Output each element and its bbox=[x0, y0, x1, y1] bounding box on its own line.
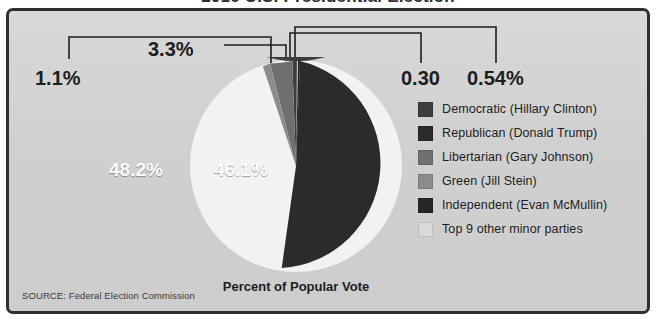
legend-swatch-minor-parties bbox=[418, 222, 433, 237]
legend-item-independent: Independent (Evan McMullin) bbox=[418, 193, 647, 217]
axis-caption: Percent of Popular Vote bbox=[185, 279, 407, 294]
legend-swatch-independent bbox=[418, 198, 433, 213]
chart-panel-inner: 46.1% 48.2% 1.1% 3.3% 0.30 0.54% Percent… bbox=[9, 11, 647, 311]
chart-title-strip: 2016 U.S. Presidential Election bbox=[0, 0, 656, 7]
slice-label-democratic: 48.2% bbox=[109, 159, 163, 181]
callout-label-minor-parties: 0.54% bbox=[467, 67, 524, 90]
callout-label-independent: 0.30 bbox=[401, 67, 440, 90]
chart-title: 2016 U.S. Presidential Election bbox=[0, 0, 656, 7]
callout-label-libertarian: 3.3% bbox=[148, 38, 194, 61]
callout-label-green: 1.1% bbox=[35, 67, 81, 90]
source-note: SOURCE: Federal Election Commission bbox=[22, 290, 195, 301]
legend-swatch-democratic bbox=[418, 102, 433, 117]
chart-screenshot: 2016 U.S. Presidential Election bbox=[0, 0, 656, 321]
legend-item-democratic: Democratic (Hillary Clinton) bbox=[418, 97, 647, 121]
legend-swatch-republican bbox=[418, 126, 433, 141]
legend-label-minor-parties: Top 9 other minor parties bbox=[442, 222, 583, 236]
legend-item-libertarian: Libertarian (Gary Johnson) bbox=[418, 145, 647, 169]
legend-label-green: Green (Jill Stein) bbox=[442, 174, 537, 188]
legend-swatch-libertarian bbox=[418, 150, 433, 165]
legend-item-republican: Republican (Donald Trump) bbox=[418, 121, 647, 145]
legend-swatch-green bbox=[418, 174, 433, 189]
legend-label-democratic: Democratic (Hillary Clinton) bbox=[442, 102, 597, 116]
chart-legend: Democratic (Hillary Clinton) Republican … bbox=[418, 97, 647, 241]
legend-item-minor-parties: Top 9 other minor parties bbox=[418, 217, 647, 241]
legend-label-republican: Republican (Donald Trump) bbox=[442, 126, 597, 140]
chart-panel: 46.1% 48.2% 1.1% 3.3% 0.30 0.54% Percent… bbox=[6, 8, 650, 314]
legend-item-green: Green (Jill Stein) bbox=[418, 169, 647, 193]
legend-label-libertarian: Libertarian (Gary Johnson) bbox=[442, 150, 593, 164]
legend-label-independent: Independent (Evan McMullin) bbox=[442, 198, 607, 212]
slice-label-republican: 46.1% bbox=[214, 159, 268, 181]
